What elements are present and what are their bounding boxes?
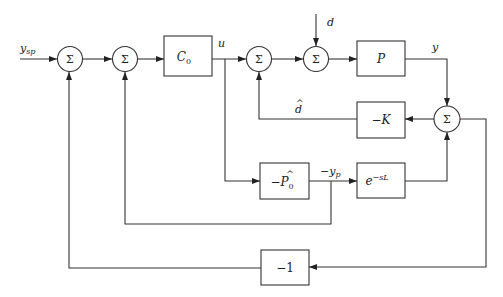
- svg-text:^: ^: [296, 98, 304, 108]
- svg-text:Σ: Σ: [121, 53, 129, 66]
- sum-junction-4: Σ: [304, 47, 329, 72]
- wire-u-to-p0: [225, 59, 260, 181]
- label-u: u: [218, 37, 225, 50]
- svg-text:Σ: Σ: [66, 53, 74, 66]
- svg-text:Σ: Σ: [312, 53, 320, 66]
- wire-yp-to-sum2: [125, 72, 331, 224]
- block-gain-k: −K: [357, 102, 405, 138]
- svg-text:−K: −K: [371, 113, 391, 127]
- block-negative-one: −1: [261, 250, 309, 285]
- block-plant-p: P: [357, 41, 405, 76]
- label-yp: −yp: [320, 165, 341, 179]
- sum-junction-2: Σ: [113, 47, 138, 72]
- label-d: d: [327, 16, 334, 29]
- block-delay: e−sL: [357, 163, 405, 198]
- svg-text:Σ: Σ: [255, 53, 263, 66]
- label-dhat: d ^: [295, 98, 304, 116]
- wire-delay-sum5: [405, 132, 447, 181]
- sum-junction-1: Σ: [58, 47, 83, 72]
- wire-y: [405, 59, 447, 106]
- wire-dhat: [259, 72, 357, 119]
- svg-text:P: P: [376, 52, 386, 66]
- block-model-p0: −P0 ^: [260, 163, 309, 199]
- wire-neg1-to-sum1: [69, 72, 261, 268]
- svg-text:Σ: Σ: [443, 113, 451, 126]
- label-y: y: [431, 41, 439, 54]
- label-ysp: ysp: [19, 42, 35, 56]
- block-controller-c0: C0: [164, 36, 212, 76]
- svg-text:^: ^: [286, 169, 294, 179]
- sum-junction-5: Σ: [434, 106, 460, 132]
- svg-text:−1: −1: [276, 261, 294, 275]
- sum-junction-3: Σ: [247, 47, 272, 72]
- block-diagram: Σ Σ Σ Σ Σ C0 P −K −P0 ^ e−sL −1 y: [0, 0, 503, 297]
